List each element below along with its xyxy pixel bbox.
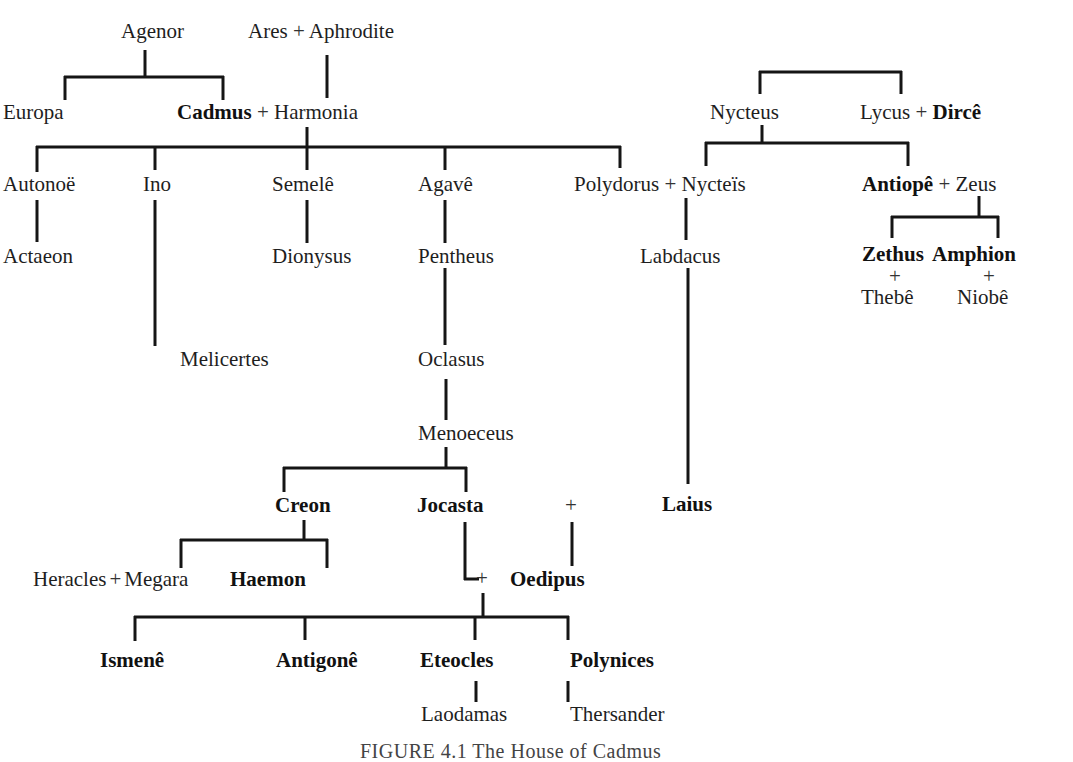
person-antigone-name: Antigonê <box>276 648 358 672</box>
person-haemon-name: Haemon <box>230 567 306 591</box>
person-labdacus: Labdacus <box>640 246 720 267</box>
plus-sign-amphion: + <box>983 266 995 287</box>
person-menoeceus: Menoeceus <box>418 423 514 444</box>
plus-sign: + <box>915 100 927 124</box>
person-polynices: Polynices <box>570 650 654 671</box>
person-antigone: Antigonê <box>276 650 358 671</box>
person-actaeon: Actaeon <box>3 246 73 267</box>
person-autonoe: Autonoë <box>3 174 75 195</box>
person-zeus: Zeus <box>956 172 997 196</box>
person-ismene-name: Ismenê <box>100 648 164 672</box>
person-zethus-name: Zethus <box>862 242 924 266</box>
person-eteocles: Eteocles <box>420 650 493 671</box>
person-jocasta-name: Jocasta <box>417 493 484 517</box>
person-thersander: Thersander <box>570 704 664 725</box>
person-creon: Creon <box>275 495 331 516</box>
person-oedipus-name: Oedipus <box>510 567 585 591</box>
person-melicertes: Melicertes <box>180 349 269 370</box>
plus-sign: + <box>938 172 950 196</box>
plus-sign: + <box>293 19 305 43</box>
person-laius-name: Laius <box>662 492 712 516</box>
person-agenor: Agenor <box>121 21 184 42</box>
plus-sign: + <box>257 100 269 124</box>
person-zethus: Zethus <box>862 244 924 265</box>
person-nycteis: Nycteïs <box>682 172 746 196</box>
person-creon-name: Creon <box>275 493 331 517</box>
person-jocasta: Jocasta <box>417 495 484 516</box>
person-polynices-name: Polynices <box>570 648 654 672</box>
person-agave: Agavê <box>418 174 473 195</box>
person-pentheus: Pentheus <box>418 246 494 267</box>
person-ares: Ares <box>248 19 288 43</box>
person-antiope: Antiopê <box>862 172 933 196</box>
person-heracles: Heracles <box>33 567 106 591</box>
person-semele: Semelê <box>272 174 334 195</box>
person-dirce: Dircê <box>933 100 982 124</box>
couple-cadmus-harmonia: Cadmus + Harmonia <box>177 102 358 123</box>
person-eteocles-name: Eteocles <box>420 648 493 672</box>
plus-sign: + <box>109 567 121 591</box>
person-amphion: Amphion <box>932 244 1016 265</box>
person-niobe: Niobê <box>957 287 1008 308</box>
person-megara: Megara <box>124 567 188 591</box>
person-haemon: Haemon <box>230 569 306 590</box>
person-dionysus: Dionysus <box>272 246 351 267</box>
person-laius: Laius <box>662 494 712 515</box>
plus-sign-jocasta-oedipus: + <box>476 568 488 589</box>
person-laodamas: Laodamas <box>421 704 507 725</box>
person-harmonia: Harmonia <box>274 100 358 124</box>
couple-polydorus-nycteis: Polydorus + Nycteïs <box>574 174 746 195</box>
person-aphrodite: Aphrodite <box>309 19 394 43</box>
person-ismene: Ismenê <box>100 650 164 671</box>
person-oedipus: Oedipus <box>510 569 585 590</box>
plus-sign-laius: + <box>565 495 577 516</box>
plus-sign-zethus: + <box>889 266 901 287</box>
person-nycteus: Nycteus <box>710 102 779 123</box>
person-polydorus: Polydorus <box>574 172 659 196</box>
couple-heracles-megara: Heracles+Megara <box>33 569 188 590</box>
person-amphion-name: Amphion <box>932 242 1016 266</box>
person-cadmus: Cadmus <box>177 100 252 124</box>
figure-caption: FIGURE 4.1 The House of Cadmus <box>360 740 661 762</box>
couple-ares-aphrodite: Ares + Aphrodite <box>248 21 394 42</box>
person-europa: Europa <box>3 102 64 123</box>
person-lycus: Lycus <box>860 100 910 124</box>
person-thebe: Thebê <box>861 287 913 308</box>
couple-antiope-zeus: Antiopê + Zeus <box>862 174 996 195</box>
plus-sign: + <box>664 172 676 196</box>
couple-lycus-dirce: Lycus + Dircê <box>860 102 981 123</box>
person-oclasus: Oclasus <box>418 349 485 370</box>
person-ino: Ino <box>143 174 171 195</box>
